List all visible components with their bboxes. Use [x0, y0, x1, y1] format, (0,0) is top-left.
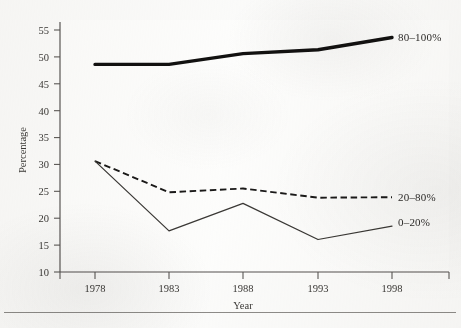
y-tick-label: 10 — [39, 267, 50, 278]
y-axis-title: Percentage — [17, 127, 28, 173]
x-tick-label: 1993 — [308, 283, 329, 294]
x-tick-label: 1998 — [382, 283, 403, 294]
y-tick-label: 25 — [39, 186, 50, 197]
y-tick-label: 50 — [39, 52, 50, 63]
y-tick-label: 15 — [39, 240, 50, 251]
x-tick-label: 1983 — [159, 283, 180, 294]
x-axis-title: Year — [233, 300, 253, 311]
series-label-80-100: 80–100% — [398, 31, 442, 43]
y-tick-label: 55 — [39, 25, 50, 36]
line-chart: 55 50 45 40 35 30 25 20 15 10 1978 1983 … — [0, 0, 461, 328]
y-tick-label: 30 — [39, 159, 50, 170]
y-axis-tick-labels: 55 50 45 40 35 30 25 20 15 10 — [39, 25, 50, 278]
bottom-divider-rule — [4, 312, 456, 313]
series-label-0-20: 0–20% — [398, 216, 430, 228]
y-tick-label: 20 — [39, 213, 50, 224]
y-tick-label: 45 — [39, 79, 50, 90]
plot-background — [60, 20, 449, 274]
x-axis-tick-labels: 1978 1983 1988 1993 1998 — [85, 283, 403, 294]
y-tick-label: 40 — [39, 106, 50, 117]
x-tick-label: 1988 — [233, 283, 254, 294]
series-label-20-80: 20–80% — [398, 191, 436, 203]
y-axis-ticks — [54, 30, 60, 272]
x-tick-label: 1978 — [85, 283, 106, 294]
y-tick-label: 35 — [39, 132, 50, 143]
figure-panel: 55 50 45 40 35 30 25 20 15 10 1978 1983 … — [0, 0, 461, 328]
